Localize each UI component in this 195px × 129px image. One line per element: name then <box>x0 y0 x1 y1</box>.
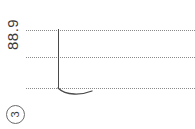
arc-curve-icon <box>56 82 96 96</box>
guide-line-top <box>26 30 195 31</box>
callout-number: 3 <box>7 106 24 123</box>
callout-badge[interactable]: 3 <box>6 105 25 124</box>
dimension-label: 88.9 <box>0 0 26 50</box>
drawing-canvas: 88.9 3 <box>0 0 195 129</box>
guide-line-bottom <box>26 88 195 89</box>
leader-line <box>58 29 59 89</box>
guide-line-middle <box>26 57 195 58</box>
